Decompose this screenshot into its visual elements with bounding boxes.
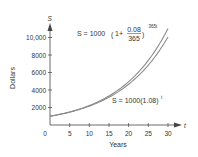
y-tick-label: 6000 xyxy=(32,69,47,76)
y-tick-label: 8000 xyxy=(32,52,47,59)
eq2-lhs: S = 1000(1.08) xyxy=(112,97,159,105)
x-axis-title: Years xyxy=(109,141,127,148)
eq1-exponent: 365t xyxy=(149,24,159,29)
y-tick-labels: 2000 4000 6000 8000 10,000 xyxy=(26,34,46,111)
eq1-one-plus: 1+ xyxy=(115,30,123,37)
annual-compounding-curve xyxy=(50,37,168,116)
y-tick-label: 4000 xyxy=(32,87,47,94)
x-tick-label: 30 xyxy=(164,130,172,137)
eq2-exponent: t xyxy=(161,95,163,100)
equation-daily-compounding: S = 1000 ( 1+ 0.08 365 ) 365t xyxy=(77,24,158,42)
eq1-lhs: S = 1000 xyxy=(77,30,105,37)
y-tick-label: 2000 xyxy=(32,104,47,111)
y-axis-title: Dollars xyxy=(9,67,16,89)
x-tick-label-origin: 0 xyxy=(43,130,47,137)
y-axis-arrow-icon xyxy=(48,23,53,31)
x-tick-label: 25 xyxy=(145,130,153,137)
axes xyxy=(50,30,176,125)
y-axis-variable: S xyxy=(48,15,53,22)
eq1-close-paren: ) xyxy=(142,31,144,39)
x-tick-label: 5 xyxy=(68,130,72,137)
x-axis-arrow-icon xyxy=(174,123,182,128)
y-tick-label: 10,000 xyxy=(26,34,46,41)
x-tick-label: 10 xyxy=(86,130,94,137)
eq1-numerator: 0.08 xyxy=(127,26,141,33)
eq1-open-paren: ( xyxy=(111,31,114,39)
x-tick-labels: 0 5 10 15 20 25 30 xyxy=(43,130,172,137)
x-tick-label: 20 xyxy=(125,130,133,137)
equation-annual-compounding: S = 1000(1.08) t xyxy=(112,95,163,105)
compound-interest-chart: S t 2000 4000 6000 8000 10,000 0 5 10 15… xyxy=(0,0,198,157)
eq1-denominator: 365 xyxy=(128,35,140,42)
x-tick-label: 15 xyxy=(105,130,113,137)
x-axis-variable: t xyxy=(184,122,187,129)
